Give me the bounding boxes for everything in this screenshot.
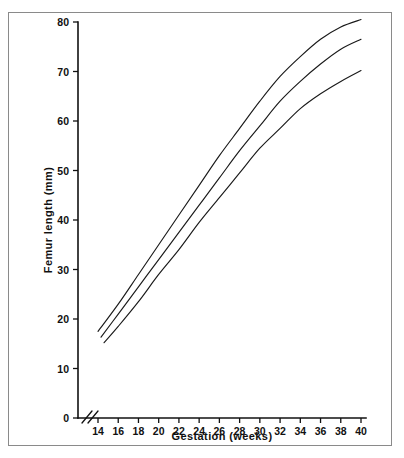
x-tick-label: 20 xyxy=(153,425,165,437)
x-tick-label: 40 xyxy=(355,425,367,437)
y-tick-label: 30 xyxy=(57,264,69,276)
y-axis-title: Femur length (mm) xyxy=(42,167,54,273)
x-tick-label: 36 xyxy=(315,425,327,437)
y-tick-label: 70 xyxy=(57,66,69,78)
x-tick-label: 16 xyxy=(112,425,124,437)
centile-curve xyxy=(98,20,361,332)
centile-curve xyxy=(104,71,361,343)
caption-fragment xyxy=(10,449,380,457)
axes xyxy=(78,22,366,418)
x-axis-break-icon xyxy=(82,411,98,423)
y-tick-label: 0 xyxy=(63,412,69,424)
x-tick-label: 18 xyxy=(133,425,145,437)
y-tick-label: 20 xyxy=(57,313,69,325)
centile-curve xyxy=(101,39,361,337)
figure-page: 01020304050607080 1416182022242628303234… xyxy=(0,0,404,458)
y-tick-label: 50 xyxy=(57,165,69,177)
y-tick-label: 10 xyxy=(57,363,69,375)
y-tick-label: 80 xyxy=(57,16,69,28)
x-axis-title: Gestation (weeks) xyxy=(172,430,273,442)
centile-curves xyxy=(98,20,361,343)
x-tick-label: 34 xyxy=(294,425,306,437)
x-tick-label: 14 xyxy=(92,425,104,437)
y-axis-ticks: 01020304050607080 xyxy=(57,16,78,424)
y-tick-label: 60 xyxy=(57,115,69,127)
femur-length-gestation-chart: 01020304050607080 1416182022242628303234… xyxy=(0,0,404,458)
y-tick-label: 40 xyxy=(57,214,69,226)
x-tick-label: 38 xyxy=(335,425,347,437)
x-tick-label: 32 xyxy=(274,425,286,437)
